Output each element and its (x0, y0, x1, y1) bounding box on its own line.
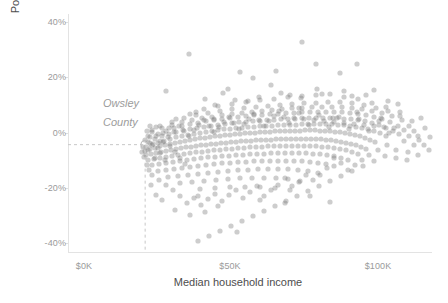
scatter-point (313, 100, 318, 105)
scatter-point (326, 124, 331, 129)
scatter-point (235, 159, 240, 164)
scatter-point (303, 172, 308, 177)
scatter-point (227, 184, 232, 189)
scatter-point (226, 192, 231, 197)
scatter-point (261, 151, 266, 156)
scatter-point (225, 168, 230, 173)
scatter-point (219, 198, 224, 203)
scatter-point (226, 114, 231, 119)
scatter-point (156, 161, 161, 166)
scatter-point (250, 75, 255, 80)
scatter-point (384, 142, 389, 147)
scatter-point (294, 193, 299, 198)
scatter-point (182, 161, 187, 166)
scatter-point (283, 158, 288, 163)
y-tick-label: 0% (24, 128, 66, 138)
scatter-point (250, 213, 255, 218)
scatter-point (296, 150, 301, 155)
scatter-point (265, 166, 270, 171)
scatter-point (282, 175, 287, 180)
scatter-point (215, 169, 220, 174)
scatter-point (310, 151, 315, 156)
scatter-point (322, 128, 327, 133)
scatter-point (232, 131, 237, 136)
scatter-point (222, 132, 227, 137)
scatter-point (341, 88, 346, 93)
scatter-point (235, 114, 240, 119)
scatter-point (411, 128, 416, 133)
scatter-point (337, 99, 342, 104)
scatter-point (233, 139, 238, 144)
scatter-point (276, 108, 281, 113)
scatter-point (401, 127, 406, 132)
scatter-point (197, 135, 202, 140)
scatter-point (363, 92, 368, 97)
scatter-point (241, 121, 246, 126)
scatter-point (362, 135, 367, 140)
scatter-point (292, 128, 297, 133)
scatter-point (359, 157, 364, 162)
scatter-point (253, 137, 258, 142)
scatter-point (149, 162, 154, 167)
scatter-point (316, 183, 321, 188)
scatter-point (203, 142, 208, 147)
scatter-point (229, 146, 234, 151)
scatter-point (257, 129, 262, 134)
scatter-point (155, 145, 160, 150)
scatter-point (211, 129, 216, 134)
plot-canvas (0, 0, 448, 303)
scatter-point (251, 158, 256, 163)
scatter-point (228, 139, 233, 144)
scatter-point (193, 112, 198, 117)
scatter-point (351, 121, 356, 126)
scatter-point (265, 143, 270, 148)
scatter-point (163, 88, 168, 93)
scatter-point (217, 228, 222, 233)
scatter-point (359, 106, 364, 111)
scatter-point (321, 118, 326, 123)
scatter-point (405, 149, 410, 154)
scatter-point (238, 138, 243, 143)
scatter-point (381, 124, 386, 129)
scatter-point (348, 116, 353, 121)
scatter-point (286, 120, 291, 125)
scatter-point (201, 117, 206, 122)
scatter-point (317, 151, 322, 156)
scatter-point (377, 130, 382, 135)
scatter-point (385, 98, 390, 103)
scatter-point (415, 152, 420, 157)
scatter-point (240, 195, 245, 200)
scatter-point (305, 188, 310, 193)
scatter-point (241, 145, 246, 150)
scatter-point (352, 162, 357, 167)
scatter-point (275, 122, 280, 127)
scatter-point (416, 137, 421, 142)
scatter-point (285, 94, 290, 99)
scatter-point (273, 175, 278, 180)
scatter-point (329, 104, 334, 109)
scatter-point (191, 195, 196, 200)
scatter-point (171, 166, 176, 171)
scatter-point (268, 187, 273, 192)
annotation-owsley-line1: Owsley (103, 97, 139, 109)
scatter-point (358, 144, 363, 149)
scatter-points (139, 39, 432, 243)
x-axis-title: Median household income (68, 276, 408, 288)
scatter-point (323, 109, 328, 114)
scatter-point (283, 136, 288, 141)
scatter-point (253, 104, 258, 109)
scatter-point (333, 138, 338, 143)
scatter-point (307, 193, 312, 198)
scatter-point (310, 177, 315, 182)
scatter-point (157, 150, 162, 155)
scatter-point (337, 70, 342, 75)
scatter-point (229, 106, 234, 111)
scatter-point (331, 145, 336, 150)
scatter-point (178, 145, 183, 150)
scatter-point (277, 143, 282, 148)
scatter-point (205, 154, 210, 159)
scatter-point (421, 142, 426, 147)
scatter-point (314, 86, 319, 91)
scatter-point (211, 147, 216, 152)
scatter-point (291, 115, 296, 120)
